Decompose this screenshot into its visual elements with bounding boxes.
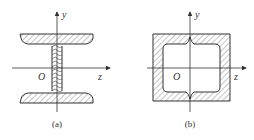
caption-b: (b): [185, 119, 196, 129]
z-axis-label: z: [233, 71, 238, 82]
origin-label: O: [173, 71, 180, 82]
figure-canvas: y z O (a) y z O (b): [0, 0, 254, 140]
origin-label: O: [38, 71, 45, 82]
i-section-shape: [20, 34, 93, 103]
panel-a: y z O (a): [12, 9, 110, 129]
box-section-shape: [153, 34, 230, 101]
z-axis-label: z: [97, 71, 102, 82]
panel-b: y z O (b): [147, 9, 246, 129]
y-axis-label: y: [194, 9, 200, 20]
caption-a: (a): [52, 119, 62, 129]
y-axis-label: y: [61, 9, 67, 20]
